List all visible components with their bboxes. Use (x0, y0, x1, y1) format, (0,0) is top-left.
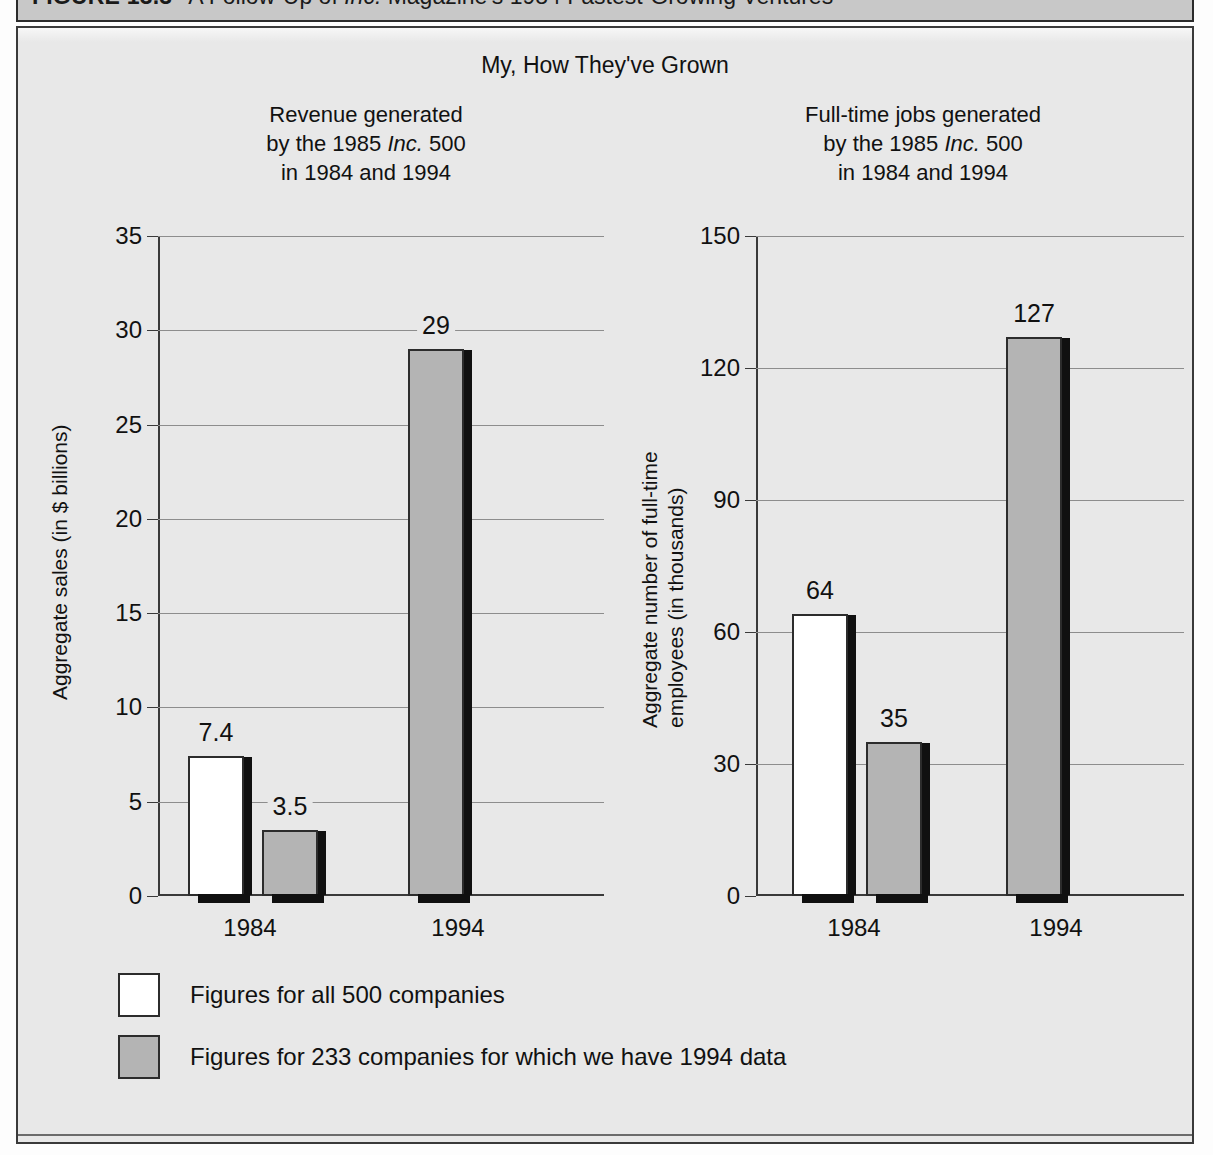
bar-1984-gray (262, 830, 318, 896)
yaxis-title-jobs-line1: Aggregate number of full-time (637, 451, 663, 728)
bar-value-label: 35 (875, 704, 913, 733)
subtitle-revenue-inc: Inc. (387, 131, 422, 156)
y-axis-tick-label: 0 (129, 882, 142, 910)
panel-bottom-rule (18, 1134, 1192, 1136)
subtitle-jobs-inc: Inc. (944, 131, 979, 156)
x-axis-tick-label-1994: 1994 (1029, 914, 1082, 942)
y-axis-tick-label: 35 (115, 222, 142, 250)
y-axis-tick-label: 15 (115, 599, 142, 627)
bar-1994-gray (1006, 337, 1062, 896)
y-axis-tick-label: 5 (129, 788, 142, 816)
y-axis-tick (147, 330, 158, 331)
subtitle-revenue-line2a: by the 1985 (266, 131, 387, 156)
bar-1994-gray (408, 349, 464, 896)
legend-swatch-white (118, 973, 160, 1017)
chart-revenue: 051015202530357.43.51984291994 (158, 236, 604, 896)
y-axis-tick-label: 150 (700, 222, 740, 250)
yaxis-title-revenue: Aggregate sales (in $ billions) (48, 425, 72, 700)
y-axis-tick (745, 236, 756, 237)
gridline (756, 500, 1184, 501)
bar-value-label: 7.4 (194, 718, 239, 747)
figure-page: product line by formulating a generic st… (0, 0, 1213, 1155)
gridline (158, 613, 604, 614)
legend: Figures for all 500 companies Figures fo… (118, 964, 1058, 1088)
subtitle-revenue-line1: Revenue generated (269, 102, 462, 127)
gridline (756, 236, 1184, 237)
subtitle-jobs-line2a: by the 1985 (823, 131, 944, 156)
gridline (158, 707, 604, 708)
y-axis-tick (745, 764, 756, 765)
subtitle-jobs: Full-time jobs generated by the 1985 Inc… (708, 100, 1138, 187)
y-axis-tick (745, 500, 756, 501)
y-axis-tick (147, 802, 158, 803)
subtitle-revenue: Revenue generated by the 1985 Inc. 500 i… (166, 100, 566, 187)
chart-panel: My, How They've Grown Revenue generated … (16, 26, 1194, 1144)
bar-1984-white (792, 614, 848, 896)
y-axis-tick-label: 120 (700, 354, 740, 382)
legend-item-all-500: Figures for all 500 companies (118, 964, 1058, 1026)
y-axis-tick (147, 236, 158, 237)
bar-value-label: 64 (801, 576, 839, 605)
bar-1984-white (188, 756, 244, 896)
subtitle-jobs-line2c: 500 (980, 131, 1023, 156)
y-axis-tick (745, 632, 756, 633)
y-axis-tick-label: 25 (115, 411, 142, 439)
bar-1984-gray (866, 742, 922, 896)
y-axis-tick-label: 10 (115, 693, 142, 721)
panel-sheen (18, 28, 1192, 42)
bar-value-label: 29 (417, 311, 455, 340)
legend-swatch-gray (118, 1035, 160, 1079)
figure-caption-bar: FIGURE 13.3A Follow-Up of Inc. Magazine'… (16, 0, 1194, 22)
y-axis-tick (147, 519, 158, 520)
gridline (158, 519, 604, 520)
figure-caption-text: FIGURE 13.3A Follow-Up of Inc. Magazine'… (32, 0, 833, 10)
bar-value-label: 127 (1008, 299, 1060, 328)
y-axis-tick (147, 425, 158, 426)
yaxis-title-jobs-line2: employees (in thousands) (663, 451, 689, 728)
legend-label-233: Figures for 233 companies for which we h… (190, 1043, 786, 1071)
y-axis-tick-label: 90 (713, 486, 740, 514)
yaxis-title-jobs: Aggregate number of full-time employees … (637, 451, 689, 728)
legend-label-all-500: Figures for all 500 companies (190, 981, 505, 1009)
y-axis-tick-label: 60 (713, 618, 740, 646)
bar-value-label: 3.5 (268, 792, 313, 821)
x-axis-tick-label-1994: 1994 (431, 914, 484, 942)
gridline (158, 330, 604, 331)
subtitle-jobs-line3: in 1984 and 1994 (838, 160, 1008, 185)
y-axis-tick (147, 707, 158, 708)
chart-jobs: 0306090120150643519841271994 (756, 236, 1184, 896)
y-axis-tick (745, 896, 756, 897)
subtitle-jobs-line1: Full-time jobs generated (805, 102, 1041, 127)
figure-caption-italic: Inc. (344, 0, 381, 9)
y-axis-tick (745, 368, 756, 369)
subtitle-revenue-line2c: 500 (423, 131, 466, 156)
figure-number: FIGURE 13.3 (32, 0, 172, 9)
legend-item-233: Figures for 233 companies for which we h… (118, 1026, 1058, 1088)
y-axis-tick (147, 613, 158, 614)
figure-caption-before: A Follow-Up of (188, 0, 344, 9)
x-axis-tick-label-1984: 1984 (827, 914, 880, 942)
gridline (756, 368, 1184, 369)
subtitle-revenue-line3: in 1984 and 1994 (281, 160, 451, 185)
y-axis-tick-label: 30 (713, 750, 740, 778)
y-axis-tick (147, 896, 158, 897)
gridline (158, 236, 604, 237)
figure-caption-after: Magazine's 1984 Fastest-Growing Ventures (381, 0, 833, 9)
chart-title: My, How They've Grown (18, 52, 1192, 79)
x-axis-tick-label-1984: 1984 (223, 914, 276, 942)
y-axis-tick-label: 20 (115, 505, 142, 533)
y-axis-tick-label: 0 (727, 882, 740, 910)
y-axis-tick-label: 30 (115, 316, 142, 344)
gridline (158, 425, 604, 426)
